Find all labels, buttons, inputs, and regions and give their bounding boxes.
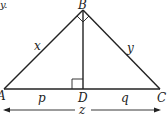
side-label-p: p (38, 91, 46, 105)
vertex-label-b: B (77, 0, 87, 12)
side-ab (4, 10, 83, 89)
arrowhead-left-icon (3, 108, 10, 113)
right-angle-marker-d (72, 79, 83, 89)
fragment-text: y. (0, 0, 8, 10)
side-label-y: y (126, 41, 134, 55)
vertex-label-c: C (157, 91, 166, 105)
triangle-diagram: y. B A D C x y p q z (0, 0, 167, 115)
side-label-x: x (34, 39, 41, 53)
side-label-q: q (121, 91, 129, 105)
arrowhead-right-icon (154, 108, 161, 113)
vertex-label-a: A (0, 89, 6, 103)
side-bc (83, 10, 160, 89)
side-label-z: z (78, 103, 86, 115)
